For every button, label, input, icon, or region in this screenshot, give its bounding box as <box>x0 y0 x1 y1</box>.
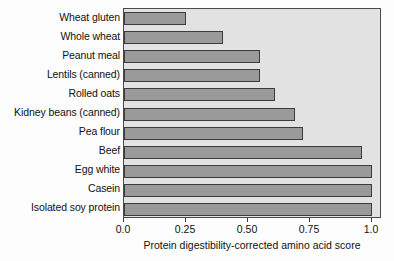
bar <box>124 184 372 197</box>
y-axis-label: Whole wheat <box>0 31 120 42</box>
y-axis-category-labels: Wheat glutenWhole wheatPeanut mealLentil… <box>0 8 120 218</box>
y-axis-label: Kidney beans (canned) <box>0 107 120 118</box>
y-axis-label: Lentils (canned) <box>0 69 120 80</box>
bar <box>124 50 260 63</box>
bar <box>124 108 295 121</box>
bar <box>124 165 372 178</box>
x-axis-title: Protein digestibility-corrected amino ac… <box>123 239 381 251</box>
y-axis-label: Isolated soy protein <box>0 202 120 213</box>
plot-area <box>123 8 381 218</box>
y-axis-label: Casein <box>0 183 120 194</box>
x-tick-label: 0.50 <box>237 223 257 235</box>
bar <box>124 31 223 44</box>
x-tick-label: 0.0 <box>116 223 131 235</box>
x-tick-mark <box>185 218 186 222</box>
bar <box>124 88 275 101</box>
chart-figure: Wheat glutenWhole wheatPeanut mealLentil… <box>0 0 394 261</box>
x-tick-label: 0.75 <box>299 223 319 235</box>
bar <box>124 69 260 82</box>
y-axis-label: Beef <box>0 145 120 156</box>
bar <box>124 146 362 159</box>
y-axis-label: Wheat gluten <box>0 12 120 23</box>
y-axis-label: Rolled oats <box>0 88 120 99</box>
x-tick-mark <box>247 218 248 222</box>
bar <box>124 203 372 216</box>
bar <box>124 12 186 25</box>
x-tick-mark <box>123 218 124 222</box>
x-tick-mark <box>309 218 310 222</box>
x-tick-mark <box>371 218 372 222</box>
y-axis-label: Peanut meal <box>0 50 120 61</box>
y-axis-label: Pea flour <box>0 126 120 137</box>
x-tick-label: 0.25 <box>175 223 195 235</box>
x-axis-ticks: 0.00.250.500.751.0 <box>123 218 381 224</box>
bar <box>124 127 303 140</box>
x-tick-label: 1.0 <box>364 223 379 235</box>
y-axis-label: Egg white <box>0 164 120 175</box>
